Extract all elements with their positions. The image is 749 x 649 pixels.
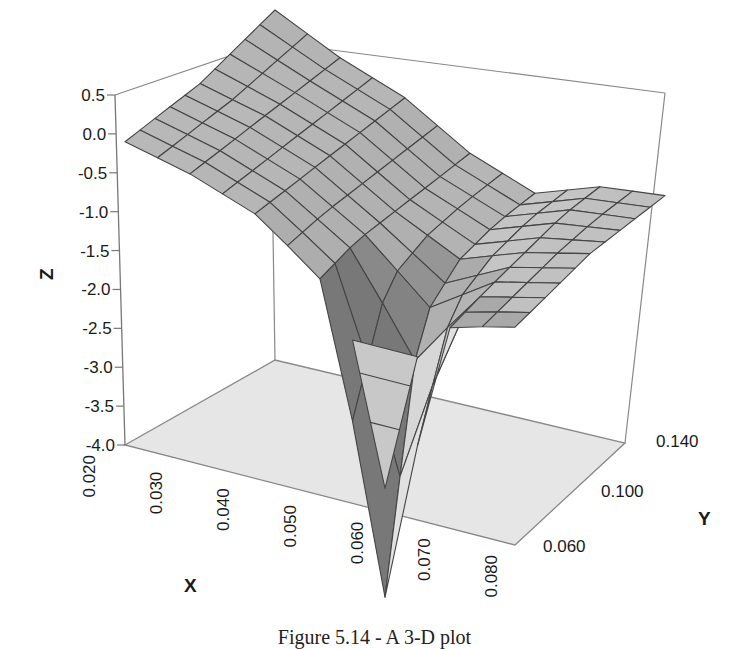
x-axis-title: X <box>184 575 197 596</box>
x-tick-label: 0.020 <box>80 455 99 498</box>
x-tick-label: 0.050 <box>281 505 300 548</box>
y-axis-title: Y <box>698 508 711 529</box>
x-tick-label: 0.080 <box>482 555 501 598</box>
x-tick-label: 0.030 <box>147 472 166 515</box>
figure-caption: Figure 5.14 - A 3-D plot <box>0 626 749 649</box>
z-axis-line <box>115 95 125 445</box>
z-tick-label: 0.5 <box>81 86 105 105</box>
x-tick-label: 0.040 <box>214 488 233 531</box>
z-axis-ticks: 0.50.0-0.5-1.0-1.5-2.0-2.5-3.0-3.5-4.0 <box>78 86 125 455</box>
x-tick-label: 0.070 <box>415 538 434 581</box>
z-tick-label: -4.0 <box>86 436 115 455</box>
z-tick-label: -2.5 <box>82 319 111 338</box>
z-tick-label: -2.0 <box>81 280 110 299</box>
z-tick-label: -1.5 <box>80 242 109 261</box>
y-tick-label: 0.100 <box>601 482 644 501</box>
x-tick-label: 0.060 <box>348 522 367 565</box>
z-tick-label: -3.0 <box>83 358 112 377</box>
z-axis-title: Z <box>36 268 57 280</box>
z-tick-label: -0.5 <box>78 164 107 183</box>
surface-mesh <box>125 10 665 597</box>
z-tick-label: -1.0 <box>79 203 108 222</box>
z-tick-label: 0.0 <box>82 125 106 144</box>
y-tick-label: 0.140 <box>656 432 699 451</box>
right-vertical-edge <box>625 93 665 443</box>
z-tick-label: -3.5 <box>85 397 114 416</box>
y-tick-label: 0.060 <box>543 537 586 556</box>
